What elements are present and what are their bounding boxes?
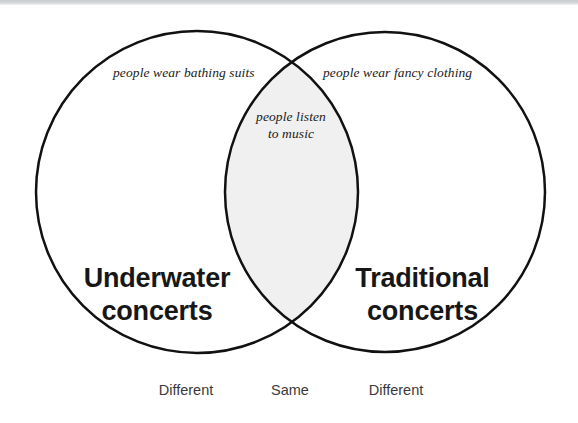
overlap-detail-label: people listen to music xyxy=(232,108,350,143)
right-set-title-line-2: concerts xyxy=(367,296,478,326)
venn-circles-graphic xyxy=(0,0,578,423)
overlap-detail-line-2: to music xyxy=(268,126,314,141)
venn-diagram-page: people wear bathing suits people wear fa… xyxy=(0,0,578,423)
left-set-title-line-2: concerts xyxy=(102,296,213,326)
caption-left-different: Different xyxy=(140,382,232,398)
right-set-title: Traditional concerts xyxy=(330,262,515,328)
left-set-title: Underwater concerts xyxy=(62,262,252,328)
overlap-detail-line-1: people listen xyxy=(256,109,326,124)
caption-center-same: Same xyxy=(252,382,328,398)
left-set-title-line-1: Underwater xyxy=(84,263,231,293)
right-set-detail-label: people wear fancy clothing xyxy=(323,65,472,81)
right-set-title-line-1: Traditional xyxy=(355,263,489,293)
caption-right-different: Different xyxy=(350,382,442,398)
left-set-detail-label: people wear bathing suits xyxy=(113,65,255,81)
